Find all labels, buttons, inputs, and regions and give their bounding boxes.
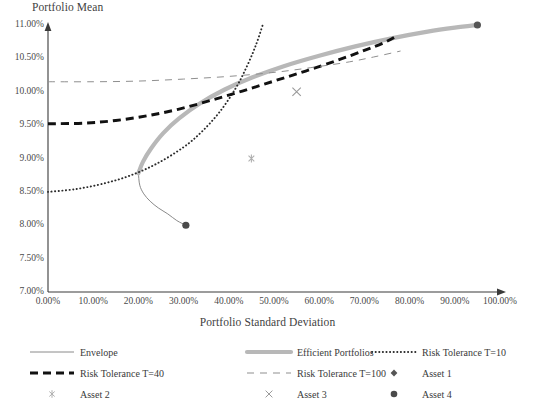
axis-lines bbox=[45, 22, 506, 295]
marker-circle-icon-wrap bbox=[368, 387, 420, 401]
legend-item-efficient-portfolios[interactable]: Efficient Portfolios bbox=[243, 345, 374, 359]
marker-asterisk-icon-wrap bbox=[26, 387, 78, 401]
legend-item-envelope[interactable]: Envelope bbox=[26, 345, 118, 359]
legend-item-asset-1[interactable]: Asset 1 bbox=[368, 366, 452, 380]
series-risk-tolerance-t-10 bbox=[48, 25, 263, 192]
series-risk-tolerance-t-100 bbox=[48, 51, 401, 82]
marker-asset-2 bbox=[249, 155, 255, 163]
line-dotted-icon-wrap bbox=[368, 345, 420, 359]
line-dashed-bold-icon bbox=[26, 366, 78, 380]
marker-circle-icon bbox=[368, 387, 420, 401]
series-envelope bbox=[138, 173, 185, 225]
chart-legend: EnvelopeEfficient PortfoliosRisk Toleran… bbox=[0, 345, 535, 407]
marker-cross-icon bbox=[243, 387, 295, 401]
line-dashed-bold-icon-wrap bbox=[26, 366, 78, 380]
marker-asterisk-icon bbox=[26, 387, 78, 401]
legend-item-label: Asset 2 bbox=[78, 389, 110, 400]
line-solid-thin-icon bbox=[26, 345, 78, 359]
marker-diamond-icon-wrap bbox=[368, 366, 420, 380]
line-dotted-icon bbox=[368, 345, 420, 359]
marker-asset-1 bbox=[474, 21, 481, 28]
marker-cross-icon-wrap bbox=[243, 387, 295, 401]
series-efficient-portfolios bbox=[138, 25, 477, 173]
legend-item-label: Asset 4 bbox=[420, 389, 452, 400]
line-dashed-thin-icon bbox=[243, 366, 295, 380]
legend-item-label: Asset 1 bbox=[420, 368, 452, 379]
legend-item-label: Risk Tolerance T=10 bbox=[420, 347, 506, 358]
legend-item-risk-tolerance-t-10[interactable]: Risk Tolerance T=10 bbox=[368, 345, 506, 359]
chart-container: Portfolio Mean Portfolio Standard Deviat… bbox=[0, 0, 535, 407]
marker-asset-4 bbox=[182, 222, 189, 229]
legend-item-label: Envelope bbox=[78, 347, 118, 358]
legend-item-asset-2[interactable]: Asset 2 bbox=[26, 387, 110, 401]
line-dashed-thin-icon-wrap bbox=[243, 366, 295, 380]
line-solid-thick-icon-wrap bbox=[243, 345, 295, 359]
data-series-layer bbox=[48, 25, 477, 225]
legend-item-asset-4[interactable]: Asset 4 bbox=[368, 387, 452, 401]
legend-item-label: Efficient Portfolios bbox=[295, 347, 374, 358]
legend-item-label: Risk Tolerance T=40 bbox=[78, 368, 164, 379]
plot-area bbox=[0, 0, 535, 345]
marker-asset-3 bbox=[292, 88, 300, 96]
legend-item-asset-3[interactable]: Asset 3 bbox=[243, 387, 327, 401]
legend-item-risk-tolerance-t-40[interactable]: Risk Tolerance T=40 bbox=[26, 366, 164, 380]
line-solid-thin-icon-wrap bbox=[26, 345, 78, 359]
line-solid-thick-icon bbox=[243, 345, 295, 359]
legend-item-label: Asset 3 bbox=[295, 389, 327, 400]
legend-item-risk-tolerance-t-100[interactable]: Risk Tolerance T=100 bbox=[243, 366, 386, 380]
marker-diamond-icon bbox=[368, 366, 420, 380]
